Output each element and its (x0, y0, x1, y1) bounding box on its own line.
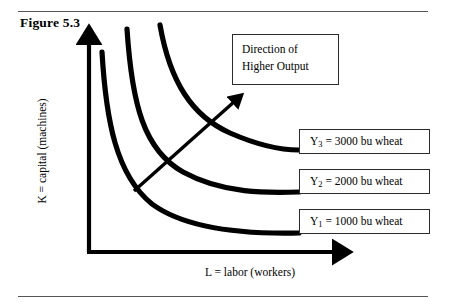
isoquant-label-y3-value: 3000 (335, 133, 358, 150)
isoquant-label-y2-value: 2000 (335, 173, 358, 190)
figure-container: Figure 5.3 K = capital (machines) L = la… (0, 0, 451, 308)
isoquant-label-box-y2: Y2 = 2000 bu wheat (299, 169, 430, 194)
isoquant-label-y2-units: bu wheat (361, 173, 403, 190)
isoquant-label-y3-equals: = (325, 133, 332, 150)
direction-box-line-2: Higher Output (242, 58, 338, 75)
direction-box-line-1: Direction of (242, 41, 338, 58)
isoquant-label-y1-subscript: 1 (318, 218, 322, 230)
isoquant-label-y1-equals: = (325, 213, 332, 230)
isoquant-label-box-y3: Y3 = 3000 bu wheat (299, 129, 430, 154)
direction-arrow (134, 101, 235, 191)
isoquant-label-y2-subscript: 2 (318, 178, 322, 190)
isoquant-label-y2-symbol: Y (310, 173, 318, 190)
y-axis-label: K = capital (machines) (36, 71, 48, 231)
isoquant-label-y3-subscript: 3 (318, 138, 322, 150)
isoquant-label-y1-value: 1000 (335, 213, 358, 230)
isoquant-label-y3-symbol: Y (310, 133, 318, 150)
isoquant-label-y1-symbol: Y (310, 213, 318, 230)
direction-of-higher-output-box: Direction of Higher Output (232, 34, 339, 85)
isoquant-plot (0, 0, 451, 308)
isoquant-label-y1-units: bu wheat (361, 213, 403, 230)
x-axis-label: L = labor (workers) (205, 266, 295, 278)
isoquant-label-y2-equals: = (325, 173, 332, 190)
isoquant-label-y3-units: bu wheat (361, 133, 403, 150)
isoquant-label-box-y1: Y1 = 1000 bu wheat (299, 209, 430, 234)
